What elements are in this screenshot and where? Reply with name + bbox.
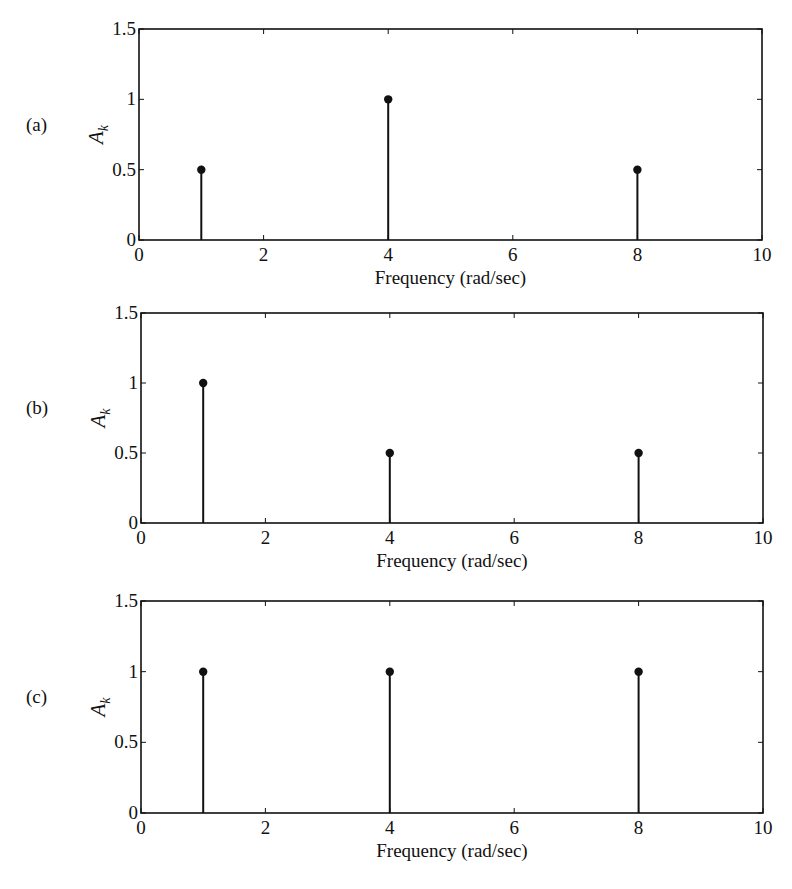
y-tick-label: 1 xyxy=(127,88,137,109)
x-tick-label: 2 xyxy=(261,817,271,838)
stem-plot-panel-c: 024681000.511.5Frequency (rad/sec)Ak(c) xyxy=(26,590,773,862)
y-tick-label: 0 xyxy=(129,512,139,533)
x-tick-label: 8 xyxy=(634,817,644,838)
x-tick-label: 8 xyxy=(634,527,644,548)
x-axis-label: Frequency (rad/sec) xyxy=(375,267,526,289)
stem-marker xyxy=(386,449,394,457)
stem-plot-figure: 024681000.511.5Frequency (rad/sec)Ak(a)0… xyxy=(0,0,792,889)
plot-frame xyxy=(141,601,763,813)
x-tick-label: 2 xyxy=(259,244,269,265)
y-tick-label: 1.5 xyxy=(114,302,138,323)
y-tick-label: 0.5 xyxy=(112,159,136,180)
stem-marker xyxy=(197,165,205,173)
plot-frame xyxy=(139,29,762,240)
y-tick-label: 1 xyxy=(129,661,139,682)
x-tick-label: 10 xyxy=(754,527,773,548)
x-tick-label: 4 xyxy=(383,244,393,265)
panel-label: (c) xyxy=(26,686,47,708)
y-axis-label: Ak xyxy=(84,124,111,146)
x-tick-label: 6 xyxy=(509,817,519,838)
y-tick-label: 0.5 xyxy=(114,442,138,463)
x-tick-label: 6 xyxy=(508,244,518,265)
x-tick-label: 4 xyxy=(385,817,395,838)
panel-label: (b) xyxy=(26,397,48,419)
x-axis-label: Frequency (rad/sec) xyxy=(376,840,527,862)
y-tick-label: 1.5 xyxy=(114,590,138,611)
y-tick-label: 0.5 xyxy=(114,731,138,752)
y-axis-label: Ak xyxy=(86,408,113,430)
stem-plot-panel-b: 024681000.511.5Frequency (rad/sec)Ak(b) xyxy=(26,302,773,572)
y-tick-label: 0 xyxy=(129,802,139,823)
stem-marker xyxy=(633,165,641,173)
stem-marker xyxy=(199,667,207,675)
x-tick-label: 8 xyxy=(633,244,643,265)
stem-plot-panel-a: 024681000.511.5Frequency (rad/sec)Ak(a) xyxy=(26,18,772,289)
x-tick-label: 10 xyxy=(754,817,773,838)
x-tick-label: 6 xyxy=(509,527,519,548)
stem-marker xyxy=(634,667,642,675)
stem-marker xyxy=(386,667,394,675)
x-tick-label: 10 xyxy=(753,244,772,265)
panel-label: (a) xyxy=(26,114,47,136)
stem-marker xyxy=(384,95,392,103)
x-tick-label: 4 xyxy=(385,527,395,548)
x-axis-label: Frequency (rad/sec) xyxy=(376,550,527,572)
stem-marker xyxy=(199,379,207,387)
plot-frame xyxy=(141,313,763,523)
y-tick-label: 1 xyxy=(129,372,139,393)
stem-marker xyxy=(634,449,642,457)
y-tick-label: 0 xyxy=(127,229,137,250)
x-tick-label: 2 xyxy=(261,527,271,548)
y-tick-label: 1.5 xyxy=(112,18,136,39)
y-axis-label: Ak xyxy=(86,697,113,719)
